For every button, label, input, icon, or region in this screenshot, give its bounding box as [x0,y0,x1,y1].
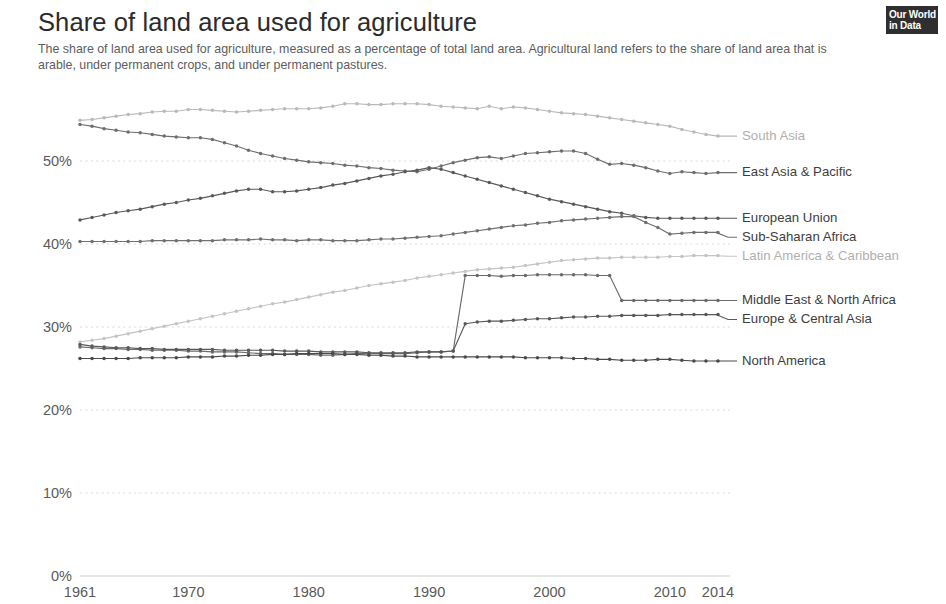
series-data-point [584,113,588,117]
series-data-point [90,216,94,220]
series-data-point [427,103,431,107]
series-data-point [692,359,696,363]
series-european-union[interactable] [78,166,720,222]
series-data-point [114,211,118,215]
series-line-path [80,124,718,173]
series-data-point [644,358,648,362]
series-latin-america-caribbean[interactable] [78,254,720,344]
series-data-point [692,171,696,175]
series-data-point [319,106,323,110]
series-data-point [463,174,467,178]
series-data-point [488,227,492,231]
series-data-point [427,235,431,239]
series-data-point [668,232,672,236]
series-data-point [463,274,467,278]
series-data-point [488,267,492,271]
series-label-text: European Union [742,210,837,225]
series-data-point [656,314,660,318]
series-east-asia-pacific[interactable] [78,123,720,175]
series-label-sub-saharan-africa[interactable]: Sub-Saharan Africa [716,229,857,244]
series-data-point [668,299,672,303]
series-data-point [259,109,263,113]
series-label-latin-america-caribbean[interactable]: Latin America & Caribbean [716,248,899,263]
series-data-point [102,337,106,341]
series-data-point [295,298,299,302]
series-data-point [560,259,564,263]
series-data-point [403,354,407,358]
series-data-point [187,108,191,112]
series-data-point [259,305,263,309]
series-data-point [307,187,311,191]
series-data-point [163,202,167,206]
series-data-point [463,355,467,359]
series-data-point [500,355,504,359]
series-label-european-union[interactable]: European Union [716,210,837,225]
series-data-point [163,239,167,243]
series-label-east-asia-pacific[interactable]: East Asia & Pacific [716,164,852,179]
series-data-point [295,107,299,111]
series-data-point [163,356,167,360]
series-data-point [163,109,167,113]
series-data-point [235,309,239,313]
series-data-point [78,343,82,347]
series-data-point [367,177,371,181]
series-data-point [247,238,251,242]
series-data-point [223,348,227,352]
series-data-point [223,238,227,242]
series-data-point [78,357,82,361]
series-data-point [150,133,154,137]
series-label-middle-east-north-africa[interactable]: Middle East & North Africa [716,292,897,307]
series-data-point [548,221,552,225]
series-data-point [271,154,275,158]
series-data-point [560,356,564,360]
series-europe-central-asia[interactable] [78,313,720,355]
series-data-point [247,148,251,152]
series-data-point [331,104,335,108]
series-data-point [596,114,600,118]
series-data-point [235,110,239,114]
line-chart: 0%10%20%30%40%50% 1961197019801990200020… [0,0,946,604]
series-data-point [560,219,564,223]
series-data-point [476,268,480,272]
series-data-point [307,238,311,242]
series-data-point [138,329,142,333]
gridlines-group [80,161,730,576]
series-data-point [391,168,395,172]
series-data-point [78,119,82,123]
series-sub-saharan-africa[interactable] [78,215,720,243]
x-axis-tick-label: 1990 [413,584,445,600]
series-data-point [488,355,492,359]
series-data-point [319,161,323,165]
y-axis-tick-label: 30% [43,319,72,335]
series-data-point [668,255,672,259]
series-data-point [524,152,528,156]
series-data-point [199,355,203,359]
series-data-point [656,123,660,127]
series-data-point [668,217,672,221]
series-labels-group: South AsiaEast Asia & PacificEuropean Un… [716,128,899,368]
series-data-point [78,218,82,222]
series-data-point [656,217,660,221]
series-data-point [463,270,467,274]
series-data-point [271,348,275,352]
series-data-point [656,169,660,173]
series-data-point [126,113,130,117]
series-data-point [211,355,215,359]
series-south-asia[interactable] [78,102,720,138]
series-data-point [175,135,179,139]
series-data-point [427,355,431,359]
series-data-point [620,314,624,318]
series-label-europe-central-asia[interactable]: Europe & Central Asia [716,311,872,326]
series-data-point [560,316,564,320]
series-data-point [150,356,154,360]
series-data-point [596,274,600,278]
series-data-point [295,239,299,243]
series-data-point [90,118,94,122]
series-label-north-america[interactable]: North America [716,353,826,368]
series-data-point [548,150,552,154]
series-data-point [102,213,106,217]
series-data-point [656,299,660,303]
series-data-point [379,103,383,107]
series-data-point [114,346,118,350]
series-label-south-asia[interactable]: South Asia [716,128,806,143]
